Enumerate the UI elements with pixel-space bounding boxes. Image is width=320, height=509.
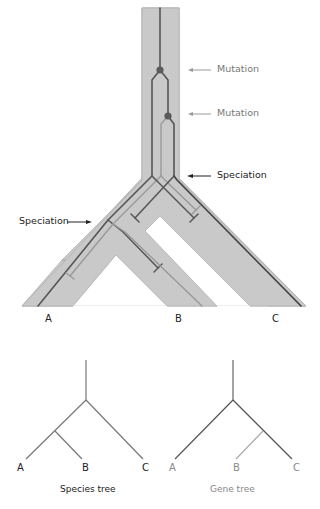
species-tree-tip-b: B bbox=[82, 462, 89, 473]
mutation-dot-1 bbox=[156, 66, 163, 73]
gene-tree-in-species-tree-diagram bbox=[0, 0, 320, 509]
species-tree-caption: Species tree bbox=[60, 484, 116, 494]
mutation-label-2: Mutation bbox=[217, 107, 259, 118]
gene-tree-caption: Gene tree bbox=[210, 484, 255, 494]
gene-tree bbox=[175, 360, 292, 459]
gene-tree-tip-b: B bbox=[233, 462, 240, 473]
gene-tree-tip-a: A bbox=[169, 462, 176, 473]
species-label-c: C bbox=[272, 313, 279, 324]
speciation-label-1: Speciation bbox=[217, 169, 267, 180]
species-tree-tip-c: C bbox=[142, 462, 149, 473]
species-tree bbox=[26, 360, 143, 459]
gene-tree-tip-c: C bbox=[293, 462, 300, 473]
species-label-b: B bbox=[175, 313, 182, 324]
species-label-a: A bbox=[45, 313, 52, 324]
speciation-label-2: Speciation bbox=[19, 215, 69, 226]
mutation-dot-2 bbox=[164, 112, 171, 119]
species-tree-tip-a: A bbox=[17, 462, 24, 473]
mutation-label-1: Mutation bbox=[217, 63, 259, 74]
